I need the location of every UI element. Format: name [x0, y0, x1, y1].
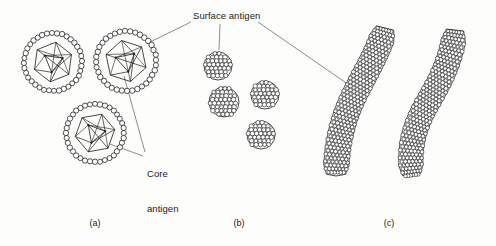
core-antigen-label-line2: antigen	[147, 203, 179, 215]
filament-bead	[451, 40, 455, 44]
filament-bead	[407, 153, 410, 156]
filament-bead	[335, 143, 339, 147]
filament-bead	[335, 154, 338, 157]
filament-bead	[348, 114, 352, 118]
filament-bead	[329, 156, 332, 159]
core-antigen-particle	[35, 42, 72, 82]
filament-bead	[334, 109, 337, 112]
core-vertex-dot	[133, 53, 135, 55]
filament-bead	[435, 90, 438, 93]
filament-bead	[345, 131, 349, 135]
filament-bead	[355, 88, 359, 92]
filament-bead	[335, 118, 338, 121]
filament-bead	[401, 133, 405, 137]
filament-bead	[453, 48, 456, 51]
envelope-bead	[151, 47, 156, 52]
envelope-bead	[95, 49, 100, 54]
filament-bead	[332, 153, 335, 156]
surface-bead	[217, 101, 221, 105]
filament-bead	[449, 43, 452, 46]
filament-bead	[375, 63, 378, 66]
filament-bead	[413, 129, 417, 133]
core-antigen-particle	[106, 41, 146, 82]
core-facet-edge	[45, 55, 72, 56]
filament-bead	[415, 98, 419, 102]
filament-bead	[400, 152, 403, 155]
filament-bead	[365, 73, 368, 76]
filament-bead	[405, 119, 409, 123]
filament-bead	[441, 38, 444, 41]
filament-bead	[402, 164, 405, 167]
filament-bead	[443, 32, 446, 35]
filament-bead	[327, 160, 330, 163]
panel-label-a: (a)	[75, 218, 115, 228]
filament-bead	[404, 130, 407, 133]
filament-bead	[433, 63, 436, 66]
envelope-bead	[44, 31, 49, 36]
filament-bead	[337, 157, 340, 160]
panel-b-spheres	[203, 52, 279, 149]
filament-bead	[338, 114, 342, 118]
core-facet-edge	[88, 143, 91, 152]
filament-bead	[448, 40, 451, 43]
filament-bead	[340, 164, 344, 168]
filament-bead	[365, 77, 368, 80]
surface-bead	[224, 74, 228, 78]
envelope-bead	[78, 68, 83, 73]
filament-bead	[325, 145, 329, 149]
filament-bead	[459, 46, 463, 50]
filament-bead	[409, 116, 412, 119]
envelope-bead	[92, 101, 97, 106]
filament-bead	[364, 50, 367, 53]
envelope-bead	[79, 58, 84, 63]
filament-bead	[418, 96, 421, 99]
envelope-bead	[120, 121, 125, 126]
panel-label-b: (b)	[219, 218, 259, 228]
filament-bead	[378, 52, 381, 55]
filament-bead	[401, 167, 405, 171]
surface-bead	[203, 63, 207, 67]
core-vertex-dot	[127, 71, 129, 73]
diagram-canvas	[0, 0, 496, 246]
envelope-bead	[24, 70, 29, 75]
surface-antigen-label: Surface antigen	[193, 10, 260, 22]
filament-bead	[377, 44, 381, 48]
filament-bead	[324, 152, 328, 156]
filament-bead	[441, 52, 444, 55]
filament-left	[323, 26, 394, 176]
filament-bead	[447, 80, 451, 84]
filament-bead	[358, 58, 361, 61]
filament-bead	[452, 59, 455, 62]
surface-bead	[208, 101, 212, 105]
filament-bead	[355, 64, 359, 68]
core-facet-edge	[37, 50, 62, 58]
filament-bead	[338, 150, 341, 153]
filament-bead	[365, 93, 369, 97]
filament-bead	[340, 126, 344, 130]
filament-bead	[347, 110, 351, 114]
filament-bead	[326, 149, 330, 153]
filament-bead	[405, 156, 409, 160]
filament-bead	[408, 112, 412, 116]
filament-bead	[456, 45, 459, 48]
filament-bead	[359, 89, 362, 92]
filament-bead	[425, 80, 429, 84]
filament-bead	[331, 160, 334, 163]
envelope-bead	[79, 63, 84, 68]
core-facet-edge	[37, 50, 45, 56]
filament-bead	[428, 75, 432, 79]
filament-bead	[358, 62, 362, 66]
filament-bead	[402, 137, 406, 141]
filament-bead	[339, 122, 342, 125]
filament-bead	[341, 151, 345, 155]
envelope-bead	[92, 159, 97, 164]
filament-bead	[458, 57, 462, 61]
core-vertex-dot	[51, 71, 53, 73]
filament-bead	[327, 142, 331, 146]
filament-bead	[327, 130, 331, 134]
filament-bead	[352, 70, 356, 74]
filament-bead	[431, 107, 434, 110]
filament-bead	[326, 137, 330, 141]
surface-bead	[263, 92, 267, 96]
filament-bead	[342, 119, 346, 123]
